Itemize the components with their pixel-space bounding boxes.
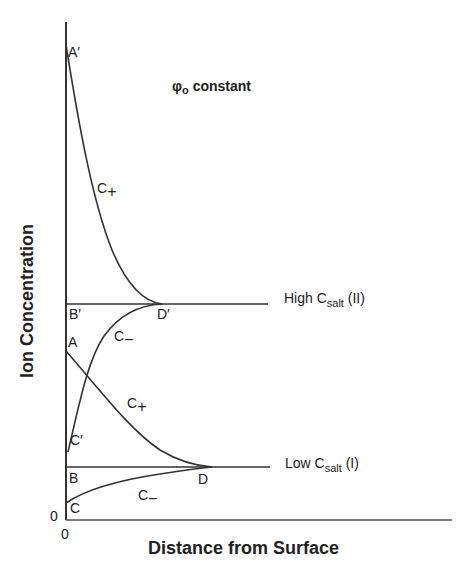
point-b: B [69, 470, 78, 486]
label-low-salt: Low Csalt (I) [285, 455, 359, 474]
label-high-cminus: C− [114, 328, 133, 349]
x-axis-title: Distance from Surface [148, 538, 339, 559]
high-cplus-curve [66, 45, 162, 304]
x-zero-tick: 0 [61, 526, 69, 542]
label-high-salt: High Csalt (II) [284, 290, 365, 309]
point-a: A [68, 334, 77, 350]
y-axis-title: Ion Concentration [17, 224, 38, 378]
point-b-prime: B′ [69, 306, 81, 322]
chart-title: φo constant [172, 78, 251, 96]
point-d: D [198, 471, 208, 487]
label-high-cplus: C+ [97, 180, 116, 201]
high-cminus-curve [68, 304, 162, 452]
point-a-prime: A′ [68, 44, 80, 60]
point-d-prime: D′ [157, 306, 170, 322]
point-c-prime: C′ [70, 432, 83, 448]
phi-subscript: o [182, 84, 189, 96]
title-text: constant [189, 78, 251, 94]
label-low-cplus: C+ [127, 395, 146, 416]
phi-symbol: φ [172, 78, 182, 94]
label-low-cminus: C− [138, 487, 157, 508]
point-c: C [70, 500, 80, 516]
y-zero-tick: 0 [50, 508, 58, 524]
